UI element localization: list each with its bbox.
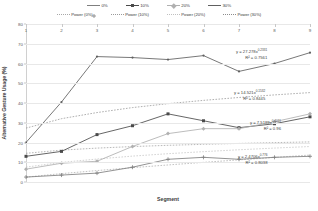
y-axis-tick-label: 40: [18, 101, 23, 106]
y-gridline: [26, 44, 310, 45]
y-axis-tick-label: 30: [18, 120, 23, 125]
trendline-r2-text: R² = 0.7561: [236, 55, 267, 60]
series-0pct-point: [24, 175, 28, 179]
legend-swatch: [167, 11, 180, 18]
x-axis-label: Segment: [26, 196, 310, 202]
legend-line-sample: [223, 14, 236, 15]
legend-item-power-10[interactable]: Power (10%): [111, 11, 149, 18]
series-10pct-point: [60, 150, 63, 153]
x-axis-tick-label: 8: [273, 28, 275, 33]
legend-item-0pct[interactable]: 0%: [87, 2, 108, 9]
x-axis-tick-label: 7: [238, 28, 240, 33]
legend-trend-row: Power (0%)Power (10%)Power (20%)Power (3…: [0, 10, 318, 19]
trendline-equation-text: y = 27.278x0.2331: [236, 48, 267, 55]
x-axis-tick-mark: [204, 24, 205, 27]
eq-20-annotation: y = 7.5189x0.4011R² = 0.96: [250, 119, 281, 131]
trendline-r2-text: R² = 0.96: [250, 126, 281, 131]
y-axis-tick-mark: [24, 142, 26, 143]
chart-screenshot: 0%10%20%30% Power (0%)Power (10%)Power (…: [0, 0, 318, 211]
legend-swatch: [111, 11, 124, 18]
trendline-equation-text: y = 7.5189x0.4011: [250, 119, 281, 126]
series-10pct-point: [167, 112, 170, 115]
y-gridline: [26, 64, 310, 65]
x-axis-tick-label: 2: [60, 28, 62, 33]
legend-item-20pct[interactable]: 20%: [167, 2, 190, 9]
legend-item-label: 10%: [140, 3, 149, 8]
chart-legend: 0%10%20%30% Power (0%)Power (10%)Power (…: [0, 1, 318, 19]
x-axis-tick-label: 4: [131, 28, 133, 33]
legend-swatch: [87, 2, 100, 9]
x-axis-tick-label: 5: [167, 28, 169, 33]
x-axis-tick-label: 6: [202, 28, 204, 33]
x-axis-tick-label: 3: [96, 28, 98, 33]
x-axis-tick-mark: [26, 24, 27, 27]
y-axis-tick-mark: [24, 63, 26, 64]
legend-swatch: [126, 2, 139, 9]
legend-item-label: Power (20%): [181, 12, 205, 17]
y-axis-tick-label: 80: [18, 22, 23, 27]
x-axis-tick-mark: [97, 24, 98, 27]
x-axis-tick-mark: [168, 24, 169, 27]
y-axis-tick-label: 60: [18, 61, 23, 66]
series-30pct-point: [167, 58, 169, 60]
x-axis-tick-mark: [310, 24, 311, 27]
series-20pct-point: [131, 144, 135, 148]
eq-0-annotation: y = 2.4706x0.776R² = 0.8038: [238, 153, 268, 165]
x-axis-tick-mark: [133, 24, 134, 27]
y-axis-tick-mark: [24, 162, 26, 163]
legend-item-label: 30%: [222, 3, 231, 8]
legend-item-label: Power (30%): [238, 12, 262, 17]
trendline-equation-text: y = 14.521x0.1532: [234, 89, 265, 96]
y-gridline: [26, 182, 310, 183]
y-gridline: [26, 143, 310, 144]
x-axis-tick-mark: [62, 24, 63, 27]
trendline-r2-text: R² = 0.8445: [234, 96, 265, 101]
series-20pct-point: [202, 127, 206, 131]
y-axis-tick-mark: [24, 43, 26, 44]
legend-item-label: Power (0%): [71, 12, 92, 17]
legend-item-label: Power (10%): [125, 12, 149, 17]
legend-line-sample: [57, 14, 70, 15]
y-axis-tick-mark: [24, 83, 26, 84]
legend-swatch: [57, 11, 70, 18]
series-0pct-point: [202, 155, 206, 159]
eq-10-annotation: y = 14.521x0.1532R² = 0.8445: [234, 89, 265, 101]
series-10pct-point: [96, 133, 99, 136]
legend-item-power-30[interactable]: Power (30%): [223, 11, 261, 18]
y-axis-tick-mark: [24, 122, 26, 123]
eq-30-annotation: y = 27.278x0.2331R² = 0.7561: [236, 48, 267, 60]
y-axis-tick-label: 70: [18, 41, 23, 46]
legend-series-row: 0%10%20%30%: [0, 1, 318, 10]
x-axis-tick-label: 9: [309, 28, 311, 33]
y-axis-tick-mark: [24, 103, 26, 104]
legend-swatch: [208, 2, 221, 9]
series-30pct-point: [202, 55, 204, 57]
x-axis-tick-mark: [275, 24, 276, 27]
series-30pct-point: [131, 56, 133, 58]
legend-item-30pct[interactable]: 30%: [208, 2, 231, 9]
series-30pct-point: [309, 52, 311, 54]
y-gridline: [26, 83, 310, 84]
legend-marker-diamond-icon: [171, 3, 176, 8]
legend-marker-plus-icon: [92, 4, 96, 8]
series-20pct-point: [166, 132, 170, 136]
series-10pct-point: [25, 155, 28, 158]
trendline-r2-text: R² = 0.8038: [238, 160, 268, 165]
series-0pct-point: [95, 171, 99, 175]
x-axis-tick-mark: [239, 24, 240, 27]
series-20pct-point: [24, 167, 28, 171]
series-30pct-point: [238, 70, 240, 72]
trendline-equation-text: y = 2.4706x0.776: [238, 153, 268, 160]
legend-line-sample: [208, 5, 221, 6]
legend-item-10pct[interactable]: 10%: [126, 2, 149, 9]
x-axis-tick-label: 1: [25, 28, 27, 33]
legend-swatch: [223, 11, 236, 18]
y-axis-tick-label: 10: [18, 160, 23, 165]
y-axis-tick-label: 0: [21, 180, 23, 185]
legend-item-power-20[interactable]: Power (20%): [167, 11, 205, 18]
legend-marker-square-icon: [131, 4, 135, 8]
series-0pct-point: [131, 165, 135, 169]
legend-item-power-0[interactable]: Power (0%): [57, 11, 93, 18]
series-20pct-point: [308, 112, 312, 116]
series-0pct-point: [166, 157, 170, 161]
